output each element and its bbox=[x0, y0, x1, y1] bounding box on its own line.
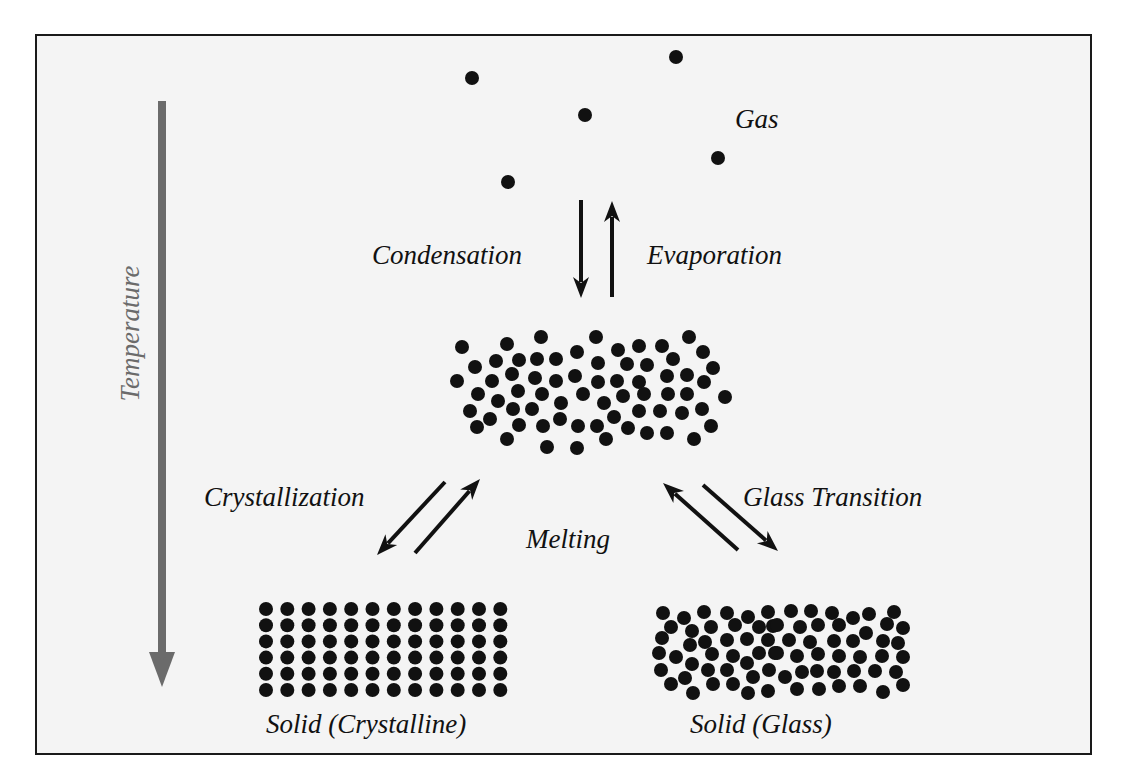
liquid-particle bbox=[653, 404, 667, 418]
glass-particle bbox=[752, 646, 766, 660]
crystal-particle bbox=[302, 602, 316, 616]
liquid-particle bbox=[528, 371, 542, 385]
liquid-particle bbox=[553, 412, 567, 426]
crystal-particle bbox=[429, 651, 443, 665]
liquid-particle bbox=[589, 330, 603, 344]
crystal-particle bbox=[429, 667, 443, 681]
crystal-particle bbox=[259, 634, 273, 648]
gas-label: Gas bbox=[735, 106, 779, 133]
liquid-particle bbox=[590, 419, 604, 433]
glass-particle bbox=[790, 649, 804, 663]
liquid-particle bbox=[525, 402, 539, 416]
glass-particle bbox=[746, 670, 760, 684]
crystalline-solid-particles bbox=[259, 602, 507, 697]
liquid-particle bbox=[570, 345, 584, 359]
glass-particle bbox=[701, 663, 715, 677]
crystal-particle bbox=[280, 618, 294, 632]
glass-particle bbox=[832, 679, 846, 693]
glass-particle bbox=[664, 620, 678, 634]
crystal-particle bbox=[280, 651, 294, 665]
crystal-particle bbox=[344, 651, 358, 665]
crystal-particle bbox=[408, 651, 422, 665]
liquid-particle bbox=[610, 374, 624, 388]
glass-particle bbox=[832, 649, 846, 663]
crystal-particle bbox=[408, 634, 422, 648]
liquid-particle bbox=[489, 354, 503, 368]
glass-particle bbox=[880, 617, 894, 631]
glass-particle bbox=[686, 686, 700, 700]
liquid-particle bbox=[655, 339, 669, 353]
liquid-particle bbox=[500, 432, 514, 446]
glass-particle bbox=[704, 620, 718, 634]
glass-particle bbox=[683, 638, 697, 652]
crystal-particle bbox=[344, 634, 358, 648]
glass-particle bbox=[896, 678, 910, 692]
glass-particle bbox=[655, 631, 669, 645]
liquid-particle bbox=[660, 369, 674, 383]
glass-particle bbox=[876, 634, 890, 648]
evaporation-arrow-icon bbox=[604, 201, 620, 297]
crystallization-arrow-icon bbox=[377, 482, 445, 555]
liquid-particle bbox=[535, 387, 549, 401]
liquid-particle bbox=[621, 421, 635, 435]
glass-particle bbox=[889, 665, 903, 679]
liquid-particle bbox=[611, 343, 625, 357]
crystal-particle bbox=[493, 602, 507, 616]
liquid-particle bbox=[591, 375, 605, 389]
crystal-particle bbox=[366, 667, 380, 681]
liquid-particle bbox=[549, 352, 563, 366]
liquid-particle bbox=[718, 390, 732, 404]
crystal-particle bbox=[408, 618, 422, 632]
crystal-particle bbox=[451, 602, 465, 616]
glass-particle bbox=[812, 682, 826, 696]
crystal-particle bbox=[344, 683, 358, 697]
condensation-arrow-icon bbox=[573, 200, 589, 298]
glass-particle bbox=[862, 607, 876, 621]
evaporation-label: Evaporation bbox=[647, 242, 782, 269]
liquid-particle bbox=[549, 374, 563, 388]
crystal-particle bbox=[302, 651, 316, 665]
crystal-particle bbox=[323, 667, 337, 681]
liquid-particle bbox=[704, 419, 718, 433]
glass-particle bbox=[761, 684, 775, 698]
glass-particle bbox=[728, 618, 742, 632]
melting-label: Melting bbox=[526, 526, 610, 553]
glass-particle bbox=[698, 635, 712, 649]
liquid-particle bbox=[468, 360, 482, 374]
crystal-particle bbox=[429, 602, 443, 616]
temperature-axis-label: Temperature bbox=[117, 264, 144, 404]
liquid-particle bbox=[616, 389, 630, 403]
glass-particle bbox=[761, 633, 775, 647]
glass-particle bbox=[827, 665, 841, 679]
liquid-particles bbox=[450, 330, 732, 455]
glass-particle bbox=[761, 605, 775, 619]
liquid-particle bbox=[512, 353, 526, 367]
glass-particle bbox=[664, 677, 678, 691]
liquid-particle bbox=[597, 396, 611, 410]
phase-diagram: Temperature Gas Condensation Evaporation… bbox=[0, 0, 1124, 783]
crystal-particle bbox=[259, 667, 273, 681]
crystal-particle bbox=[429, 618, 443, 632]
glass-particle bbox=[887, 605, 901, 619]
gas-particles bbox=[465, 50, 725, 189]
crystal-particle bbox=[472, 683, 486, 697]
crystal-particle bbox=[472, 618, 486, 632]
crystal-particle bbox=[493, 618, 507, 632]
glass-particle bbox=[778, 670, 792, 684]
crystallization-label: Crystallization bbox=[204, 484, 365, 511]
liquid-particle bbox=[568, 369, 582, 383]
glass-particle bbox=[678, 671, 692, 685]
glass-particle bbox=[795, 665, 809, 679]
liquid-particle bbox=[591, 356, 605, 370]
crystal-particle bbox=[323, 651, 337, 665]
crystal-particle bbox=[302, 667, 316, 681]
crystal-particle bbox=[280, 683, 294, 697]
liquid-particle bbox=[680, 387, 694, 401]
crystal-particle bbox=[259, 651, 273, 665]
crystal-particle bbox=[472, 667, 486, 681]
glass-particle bbox=[811, 647, 825, 661]
liquid-particle bbox=[660, 426, 674, 440]
crystal-particle bbox=[493, 634, 507, 648]
crystal-particle bbox=[493, 667, 507, 681]
glass-particle bbox=[669, 650, 683, 664]
